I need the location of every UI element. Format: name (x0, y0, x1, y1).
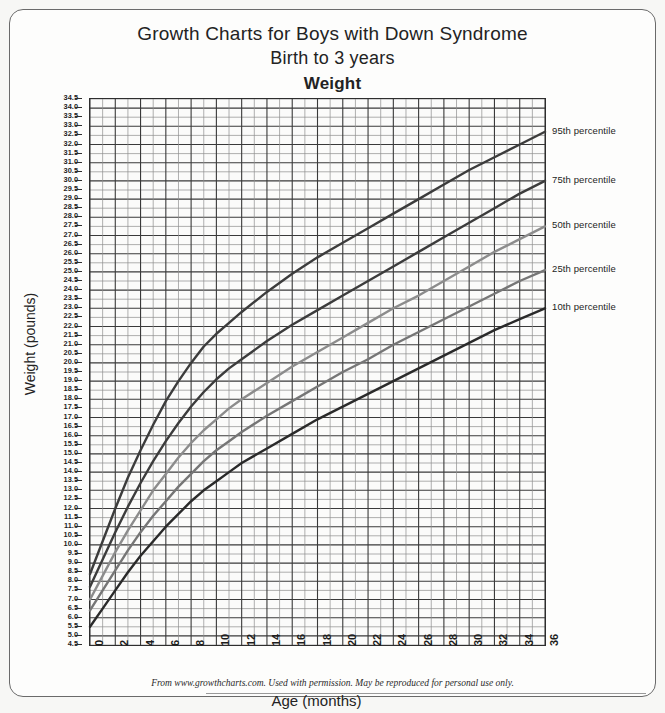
y-tick-mark (75, 498, 82, 499)
y-tick-mark (75, 326, 82, 327)
y-tick-mark (75, 453, 82, 454)
percentile-label: 25th percentile (552, 263, 616, 274)
y-tick-mark (75, 407, 82, 408)
x-tick-label: 8 (194, 640, 206, 646)
curve-75th-percentile (90, 181, 545, 587)
x-tick-label: 12 (245, 634, 257, 646)
y-tick-mark (75, 371, 82, 372)
y-tick-mark (75, 353, 82, 354)
y-tick-mark (75, 189, 82, 190)
page-title: Growth Charts for Boys with Down Syndrom… (10, 22, 655, 46)
percentile-label: 75th percentile (552, 174, 616, 185)
y-tick-mark (75, 635, 82, 636)
page-subtitle: Birth to 3 years (10, 46, 655, 70)
y-tick-mark (75, 417, 82, 418)
y-tick-mark (75, 444, 82, 445)
y-tick-mark (75, 225, 82, 226)
sheet-inner: Growth Charts for Boys with Down Syndrom… (10, 10, 655, 696)
y-tick-mark (75, 553, 82, 554)
y-tick-mark (75, 489, 82, 490)
y-tick-mark (75, 134, 82, 135)
y-tick-mark (75, 144, 82, 145)
x-tick-label: 30 (472, 634, 484, 646)
percentile-label: 50th percentile (552, 219, 616, 230)
x-tick-label: 16 (295, 634, 307, 646)
y-tick-mark (75, 180, 82, 181)
y-tick-mark (75, 171, 82, 172)
y-tick-mark (75, 280, 82, 281)
y-tick-mark (75, 107, 82, 108)
x-tick-label: 2 (118, 640, 130, 646)
curve-10th-percentile (90, 308, 545, 627)
y-tick-mark (75, 589, 82, 590)
y-tick-mark (75, 98, 82, 99)
y-tick-mark (75, 471, 82, 472)
y-tick-mark (75, 644, 82, 645)
footer-credit: From www.growthcharts.com. Used with per… (10, 678, 655, 688)
y-tick-mark (75, 153, 82, 154)
y-tick-mark (75, 389, 82, 390)
y-tick-mark (75, 426, 82, 427)
y-tick-mark (75, 362, 82, 363)
y-tick-mark (75, 116, 82, 117)
y-tick-mark (75, 316, 82, 317)
x-tick-label: 22 (371, 634, 383, 646)
y-tick-mark (75, 535, 82, 536)
x-tick-label: 26 (422, 634, 434, 646)
y-tick-mark (75, 480, 82, 481)
y-tick-mark (75, 344, 82, 345)
y-tick-mark (75, 298, 82, 299)
title-block: Growth Charts for Boys with Down Syndrom… (10, 22, 655, 96)
y-tick-mark (75, 198, 82, 199)
y-tick-mark (75, 462, 82, 463)
percentile-label: 10th percentile (552, 301, 616, 312)
y-tick-mark (75, 435, 82, 436)
x-tick-label: 28 (447, 634, 459, 646)
page-root: Growth Charts for Boys with Down Syndrom… (0, 0, 665, 713)
y-tick-mark (75, 626, 82, 627)
y-tick-mark (75, 125, 82, 126)
curve-25th-percentile (90, 270, 545, 610)
y-tick-mark (75, 571, 82, 572)
y-tick-mark (75, 599, 82, 600)
y-tick-mark (75, 307, 82, 308)
x-tick-label: 18 (321, 634, 333, 646)
y-tick-mark (75, 508, 82, 509)
x-tick-label: 6 (169, 640, 181, 646)
x-tick-label: 20 (346, 634, 358, 646)
y-tick-mark (75, 580, 82, 581)
y-tick-mark (75, 244, 82, 245)
y-tick-mark (75, 271, 82, 272)
y-tick-mark (75, 380, 82, 381)
x-tick-label: 24 (396, 634, 408, 646)
x-tick-label: 14 (270, 634, 282, 646)
y-tick-mark (75, 253, 82, 254)
chart-sheet: Growth Charts for Boys with Down Syndrom… (9, 9, 656, 697)
y-tick-mark (75, 608, 82, 609)
y-tick-mark (75, 526, 82, 527)
chart-area: Weight (pounds) 34.534.033.533.032.532.0… (80, 94, 625, 654)
y-tick-mark (75, 617, 82, 618)
y-tick-mark (75, 562, 82, 563)
y-tick-mark (75, 335, 82, 336)
y-tick-mark (75, 162, 82, 163)
y-tick-mark (75, 517, 82, 518)
x-tick-label: 36 (548, 634, 560, 646)
y-tick-mark (75, 398, 82, 399)
percentile-label: 95th percentile (552, 125, 616, 136)
y-tick-mark (75, 235, 82, 236)
x-tick-label: 32 (497, 634, 509, 646)
x-axis-tick-labels: 024681012141618202224262830323436 (89, 646, 544, 696)
x-tick-label: 4 (144, 640, 156, 646)
y-tick-mark (75, 216, 82, 217)
x-tick-label: 34 (523, 634, 535, 646)
percentile-curves (90, 99, 545, 645)
measure-title: Weight (10, 72, 655, 96)
footer-divider (206, 693, 646, 694)
y-tick-mark (75, 289, 82, 290)
y-tick-mark (75, 544, 82, 545)
x-tick-label: 10 (219, 634, 231, 646)
x-axis-title: Age (months) (89, 692, 544, 709)
x-tick-label: 0 (93, 640, 105, 646)
plot-area (89, 98, 546, 646)
